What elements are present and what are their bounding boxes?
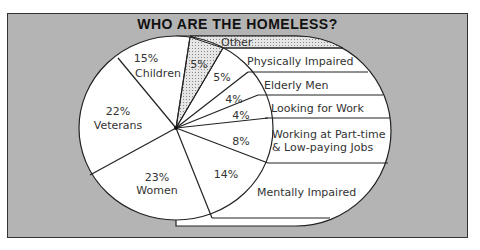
pct-physically: 5% [213,71,230,84]
pct-elderly: 4% [225,93,242,106]
pct-mentally: 14% [214,168,238,181]
label-women: Women [136,184,177,197]
pct-other: 5% [190,58,207,71]
pct-veterans: 22% [106,105,130,118]
pct-looking: 4% [232,109,249,122]
label-mentally-impaired: Mentally Impaired [257,186,356,199]
pct-children: 15% [134,52,158,65]
label-working-2: & Low-paying Jobs [272,141,373,154]
pct-working: 8% [232,135,249,148]
label-looking-for-work: Looking for Work [271,102,364,115]
pie-chart: Other Physically Impaired Elderly Men Lo… [0,0,480,250]
label-children: Children [135,67,181,80]
label-physically-impaired: Physically Impaired [247,55,354,68]
label-other: Other [221,36,253,49]
label-working-1: Working at Part-time [272,128,386,141]
label-veterans: Veterans [94,119,143,132]
label-elderly-men: Elderly Men [264,79,329,92]
pct-women: 23% [145,171,169,184]
